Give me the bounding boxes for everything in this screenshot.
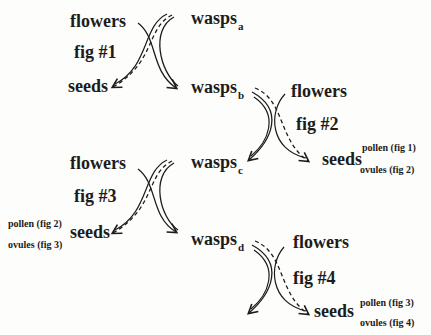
stage3-wasps-in-label: waspsc	[191, 153, 243, 171]
stage2-fig-label: fig #2	[296, 115, 339, 133]
stage1-wasps-in-label: waspsa	[191, 9, 244, 27]
stage1-flowers-label: flowers	[70, 12, 126, 30]
stage4-flowers-label: flowers	[293, 233, 349, 251]
stage4-seed-ovules-source: ovules (fig 4)	[360, 318, 414, 328]
stage2-wasps-in-label: waspsb	[191, 78, 244, 96]
stage4-fig-label: fig #4	[293, 269, 336, 287]
stage3-seed-ovules-source: ovules (fig 3)	[8, 240, 62, 250]
stage3-seed-pollen-source: pollen (fig 2)	[8, 219, 62, 229]
stage1-fig-label: fig #1	[74, 43, 117, 61]
stage2-flowers-label: flowers	[291, 82, 347, 100]
stage1-seeds-label: seeds	[68, 77, 108, 95]
stage3-seeds-label: seeds	[70, 223, 110, 241]
stage4-seeds-label: seeds	[314, 302, 354, 320]
stage3-fig-label: fig #3	[74, 187, 117, 205]
stage4-seed-pollen-source: pollen (fig 3)	[360, 298, 414, 308]
stage4-wasps-in-label: waspsd	[191, 230, 244, 248]
fig-wasp-cycle-diagram: flowers fig #1 seeds waspsa waspsb flowe…	[0, 0, 431, 335]
stage2-seeds-label: seeds	[322, 150, 362, 168]
stage2-seed-ovules-source: ovules (fig 2)	[360, 165, 414, 175]
stage2-seed-pollen-source: pollen (fig 1)	[362, 143, 416, 153]
stage3-flowers-label: flowers	[70, 154, 126, 172]
